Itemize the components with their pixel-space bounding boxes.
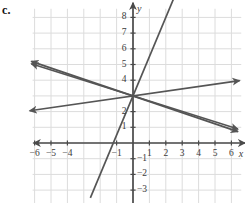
y-tick-label: 1 [115,121,133,131]
y-tick-label: 6 [115,43,133,53]
x-tick-label: 5 [206,148,224,158]
x-tick-label: 6 [222,148,240,158]
y-tick-label: −1 [133,153,151,163]
x-tick-label: 3 [173,148,191,158]
y-tick-label: 2 [115,106,133,116]
x-tick-label: 4 [190,148,208,158]
y-tick-label: −3 [133,184,151,194]
x-tick-label: −6 [26,148,44,158]
x-tick-label: −1 [108,148,126,158]
y-tick-label: 8 [115,11,133,21]
y-axis-label: y [137,3,141,14]
x-tick-label: −4 [58,148,76,158]
x-tick-label: −5 [42,148,60,158]
figure-container: c. −6−5−4−11234568765421−1−2−3xy [0,0,245,203]
y-tick-label: −2 [133,168,151,178]
y-tick-label: 7 [115,27,133,37]
x-axis-label: x [239,148,243,159]
y-tick-label: 4 [115,74,133,84]
x-tick-label: 2 [157,148,175,158]
y-tick-label: 5 [115,59,133,69]
shallow-falling-line [31,64,238,129]
